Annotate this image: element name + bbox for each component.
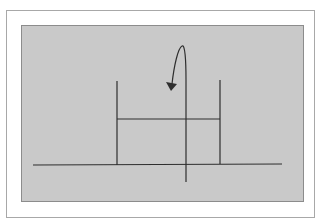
baseline <box>33 164 282 165</box>
diagram-canvas <box>0 0 320 223</box>
curved-arrow-shaft <box>172 46 186 84</box>
arrowhead-icon <box>166 82 177 91</box>
